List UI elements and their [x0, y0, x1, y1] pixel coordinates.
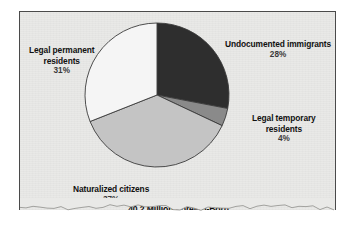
slice-value-text: 4% [252, 134, 316, 145]
slice-label-legal-permanent-residents: Legal permanent residents 31% [29, 45, 95, 77]
slice-label-text-line2: residents [29, 56, 95, 67]
slice-label-undocumented-immigrants: Undocumented immigrants 28% [225, 39, 331, 60]
slice-label-text: Undocumented immigrants [225, 39, 331, 49]
slice-label-legal-temporary-residents: Legal temporary residents 4% [252, 113, 316, 145]
pie-slice-group [85, 23, 229, 167]
slice-value-text: 28% [225, 50, 331, 61]
slice-label-text-line2: residents [252, 124, 316, 135]
slice-label-text-line1: Legal permanent [29, 45, 95, 55]
torn-paper-bottom-edge [19, 198, 336, 214]
pie-slice-undocumented-immigrants [157, 23, 229, 108]
slice-label-text: Naturalized citizens [73, 184, 149, 194]
scanned-page-sheet: Undocumented immigrants 28% Legal perman… [19, 11, 336, 210]
slice-value-text: 31% [29, 66, 95, 77]
pie-chart-figure: Undocumented immigrants 28% Legal perman… [0, 0, 356, 236]
slice-label-text-line1: Legal temporary [252, 113, 316, 123]
